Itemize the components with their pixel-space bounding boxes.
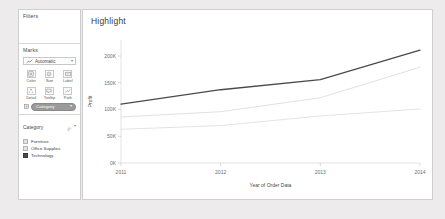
x-axis-title: Year of Order Data [250,182,292,188]
page-title: Highlight [83,10,432,26]
y-tick-label: 0K [110,160,117,166]
mark-button-path[interactable]: Path [60,86,76,101]
x-tick-label: 2014 [414,169,425,175]
mark-buttons-row-2: Detail Tooltip Path [19,85,80,102]
size-icon [45,70,54,78]
y-tick-label: 150K [104,80,116,86]
tableau-worksheet: Filters Marks Automatic ▾ Color [0,0,445,219]
pill-category[interactable]: Category ▾ [31,103,76,111]
chevron-down-icon[interactable]: ▾ [71,59,73,63]
category-legend-card: Category ▾ Furniture Office Supplies Tec… [19,115,80,159]
y-tick-label: 50K [107,133,117,139]
x-tick-label: 2013 [315,169,326,175]
mark-button-color[interactable]: Color [23,69,39,84]
mark-type-dropdown[interactable]: Automatic ▾ [23,57,76,65]
chart-panel: Highlight 0K50K100K150K200KProfit2011201… [82,9,433,200]
mark-button-color-label: Color [27,79,36,83]
series-line-furniture[interactable] [121,109,420,129]
x-tick-label: 2011 [116,169,127,175]
mark-button-path-label: Path [64,96,72,100]
filters-card: Filters [19,10,80,43]
legend-item-office-supplies[interactable]: Office Supplies [19,145,80,152]
legend-header: Category ▾ [19,115,80,138]
mark-button-detail-label: Detail [26,96,36,100]
series-line-office-supplies[interactable] [121,67,420,117]
legend-item-furniture[interactable]: Furniture [19,138,80,145]
series-line-technology[interactable] [121,50,420,104]
detail-icon [27,87,36,95]
legend-tools: ▾ [67,118,76,136]
filters-card-title: Filters [19,10,80,21]
line-mark-icon [26,58,33,64]
mark-buttons-row-1: Color Size Label [19,68,80,85]
mark-button-label-label: Label [63,79,73,83]
mark-button-detail[interactable]: Detail [23,86,39,101]
legend-item-technology[interactable]: Technology [19,152,80,159]
mark-type-value: Automatic [35,59,71,64]
chevron-down-icon[interactable]: ▾ [74,125,76,129]
marks-shelf-pill-row: Category ▾ [19,102,80,114]
x-tick-label: 2012 [215,169,226,175]
mark-button-label[interactable]: Label [60,69,76,84]
legend-sort-icon[interactable] [67,118,72,136]
mark-button-tooltip[interactable]: Tooltip [41,86,57,101]
marks-card: Marks Automatic ▾ Color [19,44,80,114]
mark-button-tooltip-label: Tooltip [44,96,55,100]
tooltip-icon [45,87,54,95]
label-icon [63,70,72,78]
mark-button-size[interactable]: Size [41,69,57,84]
legend-swatch [23,139,28,144]
line-chart[interactable]: 0K50K100K150K200KProfit2011201220132014Y… [83,32,432,199]
y-tick-label: 100K [104,106,116,112]
legend-item-label: Technology [31,153,53,158]
path-icon [63,87,72,95]
pill-category-label: Category [36,104,55,109]
color-pill-icon [23,103,29,110]
legend-item-label: Furniture [31,139,49,144]
legend-title: Category [23,124,43,130]
legend-swatch [23,146,28,151]
sidebar: Filters Marks Automatic ▾ Color [18,9,81,200]
y-axis-title: Profit [87,95,93,107]
legend-item-label: Office Supplies [31,146,60,151]
mark-button-size-label: Size [46,79,54,83]
marks-card-title: Marks [19,44,80,55]
chevron-down-icon[interactable]: ▾ [70,105,72,109]
line-chart-svg: 0K50K100K150K200KProfit2011201220132014Y… [83,32,432,199]
y-tick-label: 200K [104,53,116,59]
legend-swatch [23,153,28,158]
color-icon [27,70,36,78]
